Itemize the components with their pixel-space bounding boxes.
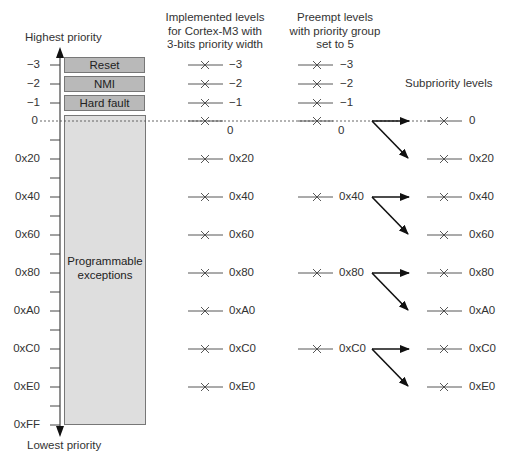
preempt-level-label: −2 [340,77,353,89]
subpriority-level-label: 0xC0 [469,342,496,354]
subpriority-level-label: 0x60 [469,228,494,240]
implemented-level-label: 0x20 [229,152,254,164]
implemented-level-label: 0x40 [229,190,254,202]
diagram-graphics [0,0,508,463]
split-arrows [372,121,409,386]
preempt-level-label: −1 [340,96,353,108]
implemented-level-label: 0xA0 [229,304,255,316]
preempt-level-label: −3 [340,58,353,70]
implemented-level-label: 0xC0 [229,342,256,354]
arrow-diagonal-icon [372,349,408,386]
implemented-level-label: −2 [229,77,242,89]
subpriority-level-label: 0x20 [469,152,494,164]
subpriority-level-label: 0xE0 [469,380,495,392]
subpriority-level-label: 0x40 [469,190,494,202]
preempt-level-label: 0xC0 [339,342,366,354]
axis-up-arrow-icon [56,47,64,58]
implemented-level-label: 0 [227,124,233,136]
subpriority-level-markers [427,117,462,391]
preempt-level-markers [298,61,333,353]
axis-down-arrow-icon [56,426,64,437]
implemented-level-markers [188,61,223,391]
arrow-diagonal-icon [372,273,408,310]
preempt-level-label: 0 [338,124,344,136]
implemented-level-label: −1 [229,96,242,108]
implemented-level-label: 0xE0 [229,380,255,392]
preempt-level-label: 0x40 [339,190,364,202]
implemented-level-label: 0x60 [229,228,254,240]
arrow-diagonal-icon [372,197,408,234]
subpriority-level-label: 0xA0 [469,304,495,316]
subpriority-level-label: 0x80 [469,266,494,278]
preempt-level-label: 0x80 [339,266,364,278]
subpriority-level-label: 0 [469,114,475,126]
implemented-level-label: 0x80 [229,266,254,278]
priority-axis [50,47,64,437]
arrow-diagonal-icon [372,121,408,158]
implemented-level-label: −3 [229,58,242,70]
